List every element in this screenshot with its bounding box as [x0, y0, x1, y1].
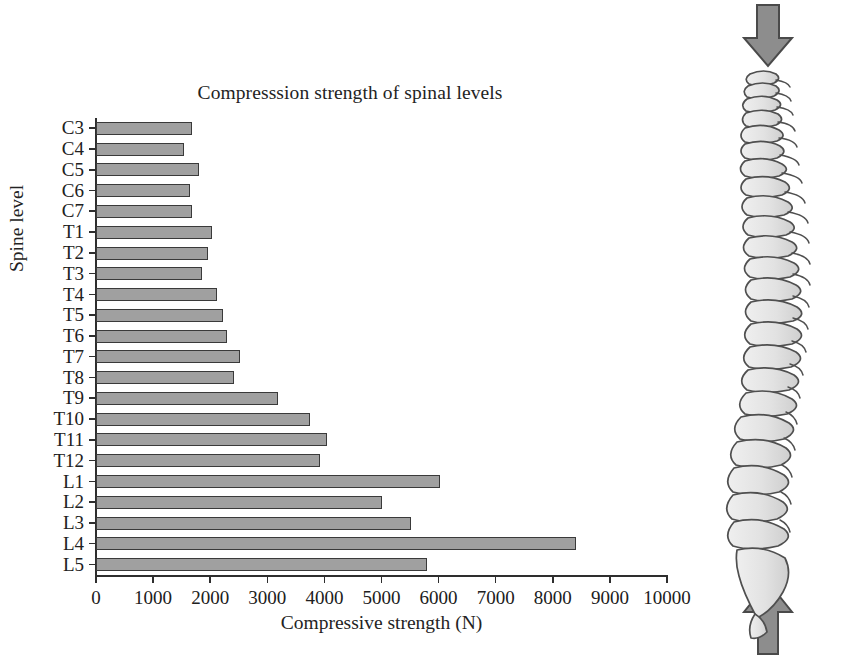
bar-row: T7 — [96, 350, 240, 363]
bar-c6 — [96, 184, 190, 197]
x-axis-tick — [152, 575, 154, 583]
y-axis-tick — [89, 252, 96, 254]
y-axis-tick — [89, 148, 96, 150]
y-axis-tick — [89, 273, 96, 275]
x-axis-tick — [209, 575, 211, 583]
bar-row: C6 — [96, 184, 190, 197]
x-axis-tick-label-4000: 4000 — [305, 588, 343, 608]
y-axis-tick-label-t9: T9 — [63, 388, 84, 407]
x-axis-tick-label-2000: 2000 — [191, 588, 229, 608]
x-axis-tick-label-1000: 1000 — [134, 588, 172, 608]
bar-row: T9 — [96, 392, 278, 405]
y-axis-tick — [89, 190, 96, 192]
bar-row: T2 — [96, 247, 208, 260]
y-axis-tick-label-t10: T10 — [53, 409, 84, 428]
y-axis-tick — [89, 418, 96, 420]
bar-t2 — [96, 247, 208, 260]
figure-compressive-strength: Compresssion strength of spinal levels C… — [0, 0, 841, 659]
y-axis-tick-label-l1: L1 — [63, 472, 84, 491]
bar-t7 — [96, 350, 240, 363]
x-axis-tick — [381, 575, 383, 583]
bar-l2 — [96, 496, 382, 509]
x-axis-tick-label-7000: 7000 — [477, 588, 515, 608]
y-axis-tick — [89, 356, 96, 358]
y-axis-tick-label-t12: T12 — [53, 451, 84, 470]
bar-row: L5 — [96, 558, 427, 571]
y-axis-tick-label-c4: C4 — [62, 139, 84, 158]
y-axis-tick-label-t3: T3 — [63, 264, 84, 283]
bar-row: L2 — [96, 496, 382, 509]
downward-compression-arrow — [744, 5, 792, 66]
y-axis-tick-label-t11: T11 — [54, 430, 84, 449]
bar-l1 — [96, 475, 440, 488]
bar-row: T12 — [96, 454, 320, 467]
x-axis-tick — [95, 575, 97, 583]
y-axis-tick-label-l2: L2 — [63, 492, 84, 511]
y-axis-tick-label-t8: T8 — [63, 368, 84, 387]
bar-c3 — [96, 122, 192, 135]
bar-l5 — [96, 558, 427, 571]
y-axis-tick-label-t2: T2 — [63, 243, 84, 262]
bar-row: L3 — [96, 517, 411, 530]
x-axis-tick — [495, 575, 497, 583]
x-axis-tick-label-0: 0 — [91, 588, 101, 608]
y-axis-tick — [89, 460, 96, 462]
y-axis-tick — [89, 169, 96, 171]
bar-l4 — [96, 537, 576, 550]
y-axis-tick-label-t6: T6 — [63, 326, 84, 345]
x-axis-tick — [438, 575, 440, 583]
y-axis-title: Spine level — [6, 185, 28, 272]
y-axis-tick — [89, 210, 96, 212]
x-axis-tick — [609, 575, 611, 583]
chart-title: Compresssion strength of spinal levels — [0, 82, 700, 104]
bar-row: T4 — [96, 288, 217, 301]
y-axis-tick — [89, 127, 96, 129]
x-axis-tick — [267, 575, 269, 583]
y-axis-tick-label-l4: L4 — [63, 534, 84, 553]
y-axis-tick-label-c6: C6 — [62, 181, 84, 200]
y-axis-tick-label-t4: T4 — [63, 285, 84, 304]
bar-row: T3 — [96, 267, 202, 280]
bar-row: T8 — [96, 371, 234, 384]
bar-t3 — [96, 267, 202, 280]
x-axis-tick — [324, 575, 326, 583]
y-axis-tick-label-l3: L3 — [63, 513, 84, 532]
bar-row: L1 — [96, 475, 440, 488]
bar-t4 — [96, 288, 217, 301]
bar-row: T10 — [96, 413, 310, 426]
y-axis-tick-label-t1: T1 — [63, 222, 84, 241]
vertebral-column — [727, 71, 802, 638]
bar-t12 — [96, 454, 320, 467]
y-axis-tick — [89, 543, 96, 545]
x-axis-tick-label-10000: 10000 — [643, 588, 691, 608]
x-axis-title: Compressive strength (N) — [96, 612, 667, 634]
x-axis-tick-label-8000: 8000 — [534, 588, 572, 608]
y-axis-tick-label-l5: L5 — [63, 555, 84, 574]
bar-row: C5 — [96, 163, 199, 176]
x-axis-tick-label-9000: 9000 — [591, 588, 629, 608]
y-axis-tick — [89, 397, 96, 399]
x-axis-tick-label-3000: 3000 — [248, 588, 286, 608]
bar-row: T1 — [96, 226, 212, 239]
bar-t11 — [96, 433, 327, 446]
bar-t1 — [96, 226, 212, 239]
bar-row: C4 — [96, 143, 184, 156]
x-axis-tick — [552, 575, 554, 583]
y-axis-tick-label-c5: C5 — [62, 160, 84, 179]
y-axis-tick — [89, 501, 96, 503]
x-axis-tick-label-5000: 5000 — [363, 588, 401, 608]
bar-t6 — [96, 330, 227, 343]
y-axis-tick — [89, 294, 96, 296]
y-axis-tick — [89, 564, 96, 566]
y-axis-tick — [89, 481, 96, 483]
x-axis-tick-label-6000: 6000 — [420, 588, 458, 608]
bar-c7 — [96, 205, 192, 218]
y-axis-tick — [89, 335, 96, 337]
spine-illustration — [700, 0, 841, 659]
bar-t5 — [96, 309, 223, 322]
y-axis-tick-label-c3: C3 — [62, 118, 84, 137]
y-axis-tick — [89, 314, 96, 316]
bar-row: T11 — [96, 433, 327, 446]
y-axis-tick — [89, 231, 96, 233]
spine-svg — [700, 0, 841, 659]
